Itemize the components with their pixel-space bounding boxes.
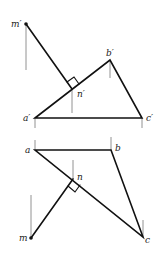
perpendicular-m-n: [31, 179, 73, 238]
label-a-prime: a′: [23, 113, 30, 123]
plan-view: [31, 150, 143, 238]
right-angle-mark-plan: [68, 185, 80, 192]
projection-lines: [26, 24, 143, 238]
elevation-view: [26, 24, 142, 118]
label-b-prime: b′: [106, 48, 114, 58]
label-c: c: [145, 235, 150, 245]
projection-diagram: m′ b′ n′ a′ c′ a b n m c: [0, 0, 161, 258]
label-m-prime: m′: [11, 19, 22, 29]
perpendicular-m-prime-n-prime: [26, 24, 72, 89]
label-c-prime: c′: [146, 113, 153, 123]
right-angle-mark-elevation: [67, 77, 79, 84]
triangle-a-prime-b-prime-c-prime: [35, 60, 142, 118]
label-m: m: [19, 233, 28, 243]
diagram-canvas: m′ b′ n′ a′ c′ a b n m c: [0, 0, 161, 258]
label-n: n: [77, 172, 83, 182]
point-m-prime: [24, 22, 28, 26]
point-m: [29, 236, 33, 240]
triangle-a-b-c: [35, 150, 143, 237]
label-n-prime: n′: [77, 89, 85, 99]
label-a: a: [25, 145, 30, 155]
label-b: b: [115, 143, 121, 153]
